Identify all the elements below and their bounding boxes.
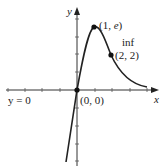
y-axis-arrow-icon [74, 7, 80, 15]
origin-point [74, 87, 79, 92]
y-axis-label: y [66, 5, 72, 17]
asymptote-label: y = 0 [8, 94, 31, 106]
maximum-point [91, 24, 96, 29]
function-graph: y x (1, e) inf (2, 2) (0, 0) y = 0 [0, 0, 165, 166]
function-curve [66, 27, 147, 162]
max-point-label: (1, e) [99, 19, 123, 32]
origin-label: (0, 0) [80, 94, 104, 107]
inflection-point-label: (2, 2) [115, 49, 139, 62]
inflection-tag: inf [122, 36, 135, 48]
x-axis [6, 87, 159, 93]
x-axis-label: x [153, 93, 159, 105]
inflection-point [108, 52, 113, 57]
